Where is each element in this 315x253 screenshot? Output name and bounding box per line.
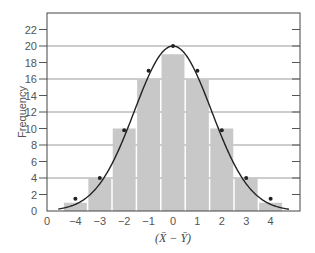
curve-point xyxy=(171,44,175,48)
y-tick-label: 6 xyxy=(31,156,37,168)
x-origin-label: 0 xyxy=(44,215,50,227)
x-tick-label: 2 xyxy=(219,215,225,227)
y-tick-label: 18 xyxy=(25,57,37,69)
y-tick-label: 22 xyxy=(25,24,37,36)
histogram-bar xyxy=(210,129,233,212)
curve-point xyxy=(147,69,151,73)
x-tick-label: −3 xyxy=(94,215,107,227)
histogram-bar xyxy=(113,129,136,212)
x-tick-label: 1 xyxy=(194,215,200,227)
y-tick-label: 16 xyxy=(25,73,37,85)
histogram-chart: 0246810121416182022 0−4−3−2−101234 Frequ… xyxy=(0,0,315,253)
histogram-bar xyxy=(186,79,209,211)
x-tick-label: −1 xyxy=(142,215,155,227)
curve-point xyxy=(73,197,77,201)
x-tick-label: 3 xyxy=(243,215,249,227)
x-tick-label: 4 xyxy=(268,215,274,227)
y-tick-label: 4 xyxy=(31,172,37,184)
curve-point xyxy=(269,197,273,201)
curve-point xyxy=(98,176,102,180)
y-tick-label: 2 xyxy=(31,189,37,201)
y-axis-title: Frequency xyxy=(16,86,28,138)
y-tick-label: 0 xyxy=(31,205,37,217)
curve-point xyxy=(122,128,126,132)
x-tick-label: −2 xyxy=(118,215,131,227)
y-tick-label: 8 xyxy=(31,139,37,151)
curve-point xyxy=(244,176,248,180)
curve-point xyxy=(220,128,224,132)
curve-point xyxy=(195,69,199,73)
x-tick-label: −4 xyxy=(69,215,82,227)
histogram-bar xyxy=(137,79,160,211)
x-axis-title: (X̄ − Ȳ) xyxy=(155,231,191,245)
x-tick-label: 0 xyxy=(170,215,176,227)
y-tick-label: 20 xyxy=(25,40,37,52)
histogram-bar xyxy=(162,54,185,211)
x-axis-ticks: 0−4−3−2−101234 xyxy=(44,215,274,227)
